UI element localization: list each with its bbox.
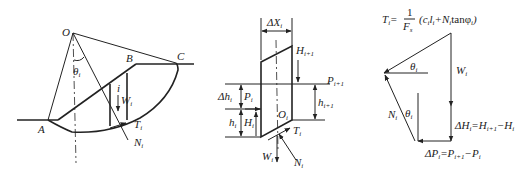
- shear-formula: Ti=: [382, 13, 398, 27]
- label-H: Hi: [243, 116, 254, 130]
- label-theta1: θi: [410, 60, 417, 74]
- label-h: hi: [229, 116, 237, 130]
- label-theta2: θi: [405, 107, 412, 121]
- radius-OA: [48, 33, 73, 120]
- label-dh: Δhi: [217, 90, 232, 104]
- T-vector: [384, 33, 451, 73]
- label-T: Ti: [293, 124, 301, 138]
- label-O: Oi: [278, 108, 288, 122]
- label-O: O: [62, 26, 70, 38]
- label-N: Ni: [133, 136, 143, 150]
- label-h-next: hi+1: [318, 96, 334, 110]
- force-polygon: Ti= 1 Fs (cili+Nitanφi) Wi θi θi Ni ΔHi=…: [382, 6, 514, 161]
- label-N: Ni: [387, 108, 397, 122]
- label-P: Pi: [243, 90, 253, 104]
- slope-slice-diagram: O A B C θi i Wi Ti Ni: [17, 26, 194, 163]
- label-dP: ΔPi=Pi+1−Pi: [424, 147, 481, 161]
- label-A: A: [37, 123, 45, 135]
- label-H-next: Hi+1: [295, 44, 314, 58]
- label-N: Ni: [293, 156, 303, 170]
- label-dH: ΔHi=Hi+1−Hi: [454, 119, 514, 133]
- figure: O A B C θi i Wi Ti Ni: [0, 0, 523, 184]
- formula-rhs: (cili+Nitanφi): [419, 13, 477, 27]
- formula-denominator: Fs: [402, 20, 413, 34]
- formula-numerator: 1: [407, 6, 413, 18]
- label-i: i: [117, 82, 120, 94]
- label-B: B: [126, 52, 133, 64]
- label-C: C: [177, 50, 185, 62]
- label-P-next: Pi+1: [326, 74, 344, 88]
- slip-surface: [48, 63, 178, 132]
- label-T: Ti: [134, 118, 142, 132]
- slice-centerline: [276, 40, 278, 150]
- label-theta: θi: [73, 65, 80, 79]
- vertical-centerline: [73, 33, 76, 163]
- label-dX: ΔXi: [266, 16, 282, 30]
- label-W: Wi: [262, 150, 273, 164]
- label-W: Wi: [456, 64, 467, 78]
- slope-face: [58, 64, 136, 120]
- label-W: Wi: [121, 94, 132, 108]
- single-slice-force-diagram: ΔXi Hi+1 Pi+1 hi+1 Δhi Pi hi Hi Oi Ti Wi…: [217, 16, 344, 170]
- theta-arc: [74, 57, 84, 61]
- radius-OC: [73, 33, 176, 63]
